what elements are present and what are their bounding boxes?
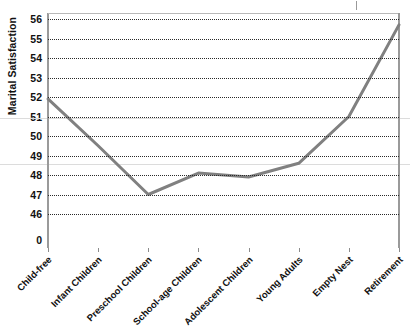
x-axis-tick-mark	[98, 248, 99, 252]
data-series-line	[48, 13, 399, 248]
gridline	[48, 39, 399, 40]
y-axis-tick-label: 48	[16, 170, 42, 181]
x-axis-tick-mark	[198, 248, 199, 252]
x-axis-tick-label: Empty Nest	[310, 254, 355, 299]
y-axis-tick-label: 51	[16, 112, 42, 123]
gridline	[48, 97, 399, 98]
line-chart: Marital Satisfaction 5655545352515049484…	[0, 0, 410, 336]
gridline	[48, 136, 399, 137]
x-axis-tick-mark	[48, 248, 49, 252]
x-axis-tick-mark	[399, 248, 400, 252]
y-axis-tick-label: 47	[16, 190, 42, 201]
y-axis-tick-label: 53	[16, 73, 42, 84]
gridline	[48, 19, 399, 20]
x-axis-tick-mark	[148, 248, 149, 252]
x-axis-tick-mark	[299, 248, 300, 252]
x-axis-tick-mark	[349, 248, 350, 252]
x-axis-tick-label: Child-free	[15, 254, 54, 293]
x-axis-tick-label: Retirement	[362, 254, 405, 297]
y-axis-tick-label: 56	[16, 14, 42, 25]
gridline	[48, 156, 399, 157]
y-axis-tick-label: 49	[16, 151, 42, 162]
x-axis-tick-mark	[249, 248, 250, 252]
y-axis-tick-label: 50	[16, 131, 42, 142]
y-axis-tick-label: 52	[16, 92, 42, 103]
plot-area	[48, 13, 399, 248]
y-axis-tick-label: 55	[16, 34, 42, 45]
gridline	[48, 117, 399, 118]
gridline	[48, 195, 399, 196]
gridline	[48, 78, 399, 79]
gridline	[48, 58, 399, 59]
y-axis-tick-label: 0	[16, 235, 42, 246]
x-axis-tick-label: Young Adults	[254, 254, 305, 305]
x-axis-tick-labels: Child-freeInfant ChildrenPreschool Child…	[0, 248, 410, 336]
y-axis-tick-label: 54	[16, 53, 42, 64]
scan-artifact-mark	[356, 1, 357, 10]
x-axis-tick-label: Infant Children	[49, 254, 104, 309]
y-axis-tick-labels: 56555453525150494847460	[10, 0, 42, 260]
gridline	[48, 175, 399, 176]
y-axis-tick-label: 46	[16, 209, 42, 220]
gridline	[48, 214, 399, 215]
